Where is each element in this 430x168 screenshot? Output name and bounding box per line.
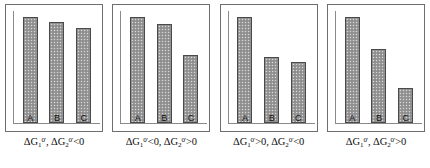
- panel-caption-4: ΔG10', ΔG20'>0: [346, 137, 406, 149]
- bar-1-b: [49, 22, 64, 123]
- bar-3-a: [237, 17, 252, 123]
- bar-label-3-c: C: [295, 114, 302, 123]
- caption-3-delta1: ΔG: [233, 136, 247, 147]
- bar-2-b: [157, 24, 172, 123]
- bar-label-1-b: B: [54, 114, 60, 123]
- panel-caption-1: ΔG10', ΔG20'<0: [24, 137, 84, 149]
- y-axis-line-2: [120, 11, 121, 124]
- plot-area-2: A B C: [112, 4, 210, 132]
- y-axis-line-4: [335, 11, 336, 124]
- bar-slot-1-c: C: [76, 11, 92, 123]
- caption-3-relation1: >0: [255, 136, 266, 147]
- y-axis-line-1: [13, 11, 14, 124]
- bar-group-4: A B C: [339, 11, 419, 123]
- panel-caption-2: ΔG10'<0, ΔG20'>0: [126, 137, 197, 149]
- bar-1-c: [76, 28, 91, 123]
- caption-1-relation: <0: [73, 136, 84, 147]
- panel-caption-3: ΔG10'>0, ΔG20'<0: [233, 137, 304, 149]
- x-axis-line-3: [228, 123, 315, 124]
- bar-label-1-c: C: [80, 114, 87, 123]
- caption-2-relation1: <0: [148, 136, 159, 147]
- plot-area-4: A B C: [327, 4, 425, 132]
- plot-inner-2: A B C: [120, 11, 204, 124]
- plot-area-1: A B C: [5, 4, 103, 132]
- plot-inner-4: A B C: [335, 11, 419, 124]
- caption-1-delta1: ΔG: [24, 136, 38, 147]
- bar-label-2-c: C: [188, 114, 195, 123]
- bar-slot-2-b: B: [156, 11, 172, 123]
- bar-label-2-b: B: [161, 114, 167, 123]
- caption-2-delta2: ΔG: [164, 136, 178, 147]
- caption-4-relation: >0: [395, 136, 406, 147]
- bar-slot-1-a: A: [22, 11, 38, 123]
- bar-chart-figure: A B C ΔG10', ΔG20'<0: [0, 0, 430, 168]
- caption-4-delta1: ΔG: [346, 136, 360, 147]
- bar-4-b: [371, 49, 386, 123]
- bar-label-4-a: A: [349, 114, 355, 123]
- bar-label-1-a: A: [27, 114, 33, 123]
- bar-label-3-a: A: [242, 114, 248, 123]
- caption-2-delta1: ΔG: [126, 136, 140, 147]
- bar-label-4-c: C: [402, 114, 409, 123]
- chart-panel-2: A B C ΔG10'<0, ΔG20'>0: [109, 4, 213, 164]
- bar-group-2: A B C: [124, 11, 204, 123]
- bar-label-2-a: A: [135, 114, 141, 123]
- chart-panel-1: A B C ΔG10', ΔG20'<0: [2, 4, 106, 164]
- caption-3-delta2: ΔG: [271, 136, 285, 147]
- x-axis-line-1: [13, 123, 100, 124]
- plot-inner-3: A B C: [228, 11, 312, 124]
- plot-inner-1: A B C: [13, 11, 97, 124]
- y-axis-line-3: [228, 11, 229, 124]
- bar-slot-2-a: A: [130, 11, 146, 123]
- bar-slot-4-b: B: [371, 11, 387, 123]
- caption-4-delta2: ΔG: [373, 136, 387, 147]
- caption-1-delta2: ΔG: [51, 136, 65, 147]
- bar-label-4-b: B: [376, 114, 382, 123]
- bar-slot-4-a: A: [344, 11, 360, 123]
- chart-panel-4: A B C ΔG10', ΔG20'>0: [324, 4, 428, 164]
- bar-slot-3-b: B: [264, 11, 280, 123]
- bar-slot-1-b: B: [49, 11, 65, 123]
- chart-panel-3: A B C ΔG10'>0, ΔG20'<0: [217, 4, 321, 164]
- bar-1-a: [23, 17, 38, 123]
- bar-4-a: [345, 17, 360, 123]
- plot-area-3: A B C: [220, 4, 318, 132]
- bar-slot-3-a: A: [237, 11, 253, 123]
- bar-group-1: A B C: [17, 11, 97, 123]
- bar-label-3-b: B: [269, 114, 275, 123]
- bar-slot-4-c: C: [398, 11, 414, 123]
- bar-slot-3-c: C: [290, 11, 306, 123]
- bar-2-a: [130, 17, 145, 123]
- bar-group-3: A B C: [232, 11, 312, 123]
- caption-3-relation2: <0: [293, 136, 304, 147]
- caption-2-relation2: >0: [186, 136, 197, 147]
- bar-slot-2-c: C: [183, 11, 199, 123]
- x-axis-line-2: [120, 123, 207, 124]
- x-axis-line-4: [335, 123, 422, 124]
